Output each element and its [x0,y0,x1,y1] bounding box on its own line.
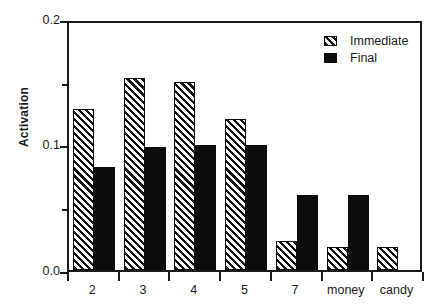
x-tick-1 [118,272,120,281]
bar-immediate-7 [276,241,297,270]
x-tick-0 [67,272,69,281]
x-tick-7 [422,272,424,281]
bar-final-3 [145,147,166,270]
bar-immediate-money [327,247,348,270]
legend-swatch-final-icon [324,53,337,63]
bar-group-5 [221,23,272,270]
x-label-7: 7 [292,283,299,297]
chart-legend: Immediate Final [324,33,408,67]
x-label-4: 4 [190,283,197,297]
x-tick-4 [270,272,272,281]
x-label-5: 5 [241,283,248,297]
y-tick-label-0.0: 0.0 [14,264,60,278]
bar-final-2 [94,167,115,270]
bar-group-7 [272,23,323,270]
y-tick-label-0.1: 0.1 [14,138,60,152]
x-label-3: 3 [140,283,147,297]
legend-entry-immediate: Immediate [324,33,408,48]
bar-chart-figure: Activation 0.2 0.1 0.0 [0,0,446,308]
bar-final-7 [297,195,318,270]
bar-group-3 [120,23,171,270]
bar-group-2 [69,23,120,270]
y-axis-title: Activation [17,57,31,177]
bar-immediate-3 [124,78,145,270]
legend-swatch-immediate-icon [324,36,337,46]
bar-final-4 [195,145,216,271]
legend-entry-final: Final [324,50,408,65]
bar-immediate-candy [377,247,398,270]
x-label-2: 2 [89,283,96,297]
bar-final-money [348,195,369,270]
x-label-candy: candy [380,283,413,297]
bar-immediate-2 [73,109,94,270]
x-tick-6 [371,272,373,281]
x-tick-2 [168,272,170,281]
x-tick-5 [321,272,323,281]
bar-group-4 [170,23,221,270]
x-tick-3 [219,272,221,281]
legend-label-final: Final [350,51,377,65]
bar-immediate-4 [174,82,195,270]
bar-final-5 [246,145,267,271]
legend-label-immediate: Immediate [350,34,408,48]
x-label-money: money [327,283,365,297]
bar-immediate-5 [225,119,246,270]
y-tick-label-0.2: 0.2 [14,13,60,27]
